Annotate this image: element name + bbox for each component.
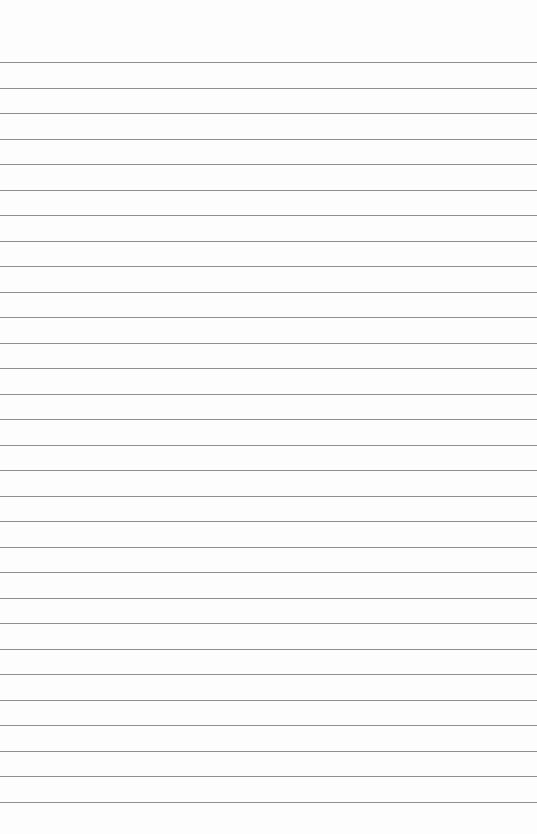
ruled-line <box>0 292 537 293</box>
ruled-line <box>0 419 537 420</box>
ruled-line <box>0 521 537 522</box>
ruled-line <box>0 470 537 471</box>
ruled-line <box>0 368 537 369</box>
ruled-line <box>0 700 537 701</box>
ruled-line <box>0 62 537 63</box>
ruled-line <box>0 572 537 573</box>
ruled-line <box>0 649 537 650</box>
ruled-line <box>0 343 537 344</box>
ruled-line <box>0 139 537 140</box>
ruled-line <box>0 266 537 267</box>
ruled-line <box>0 241 537 242</box>
ruled-line <box>0 164 537 165</box>
ruled-line <box>0 113 537 114</box>
ruled-line <box>0 598 537 599</box>
ruled-line <box>0 317 537 318</box>
ruled-line <box>0 802 537 803</box>
ruled-line <box>0 496 537 497</box>
lined-paper-sheet <box>0 0 537 834</box>
ruled-line <box>0 751 537 752</box>
ruled-line <box>0 190 537 191</box>
ruled-line <box>0 445 537 446</box>
ruled-line <box>0 674 537 675</box>
ruled-line <box>0 776 537 777</box>
ruled-line <box>0 623 537 624</box>
ruled-line <box>0 215 537 216</box>
ruled-line <box>0 725 537 726</box>
ruled-line <box>0 88 537 89</box>
ruled-line <box>0 547 537 548</box>
ruled-line <box>0 394 537 395</box>
